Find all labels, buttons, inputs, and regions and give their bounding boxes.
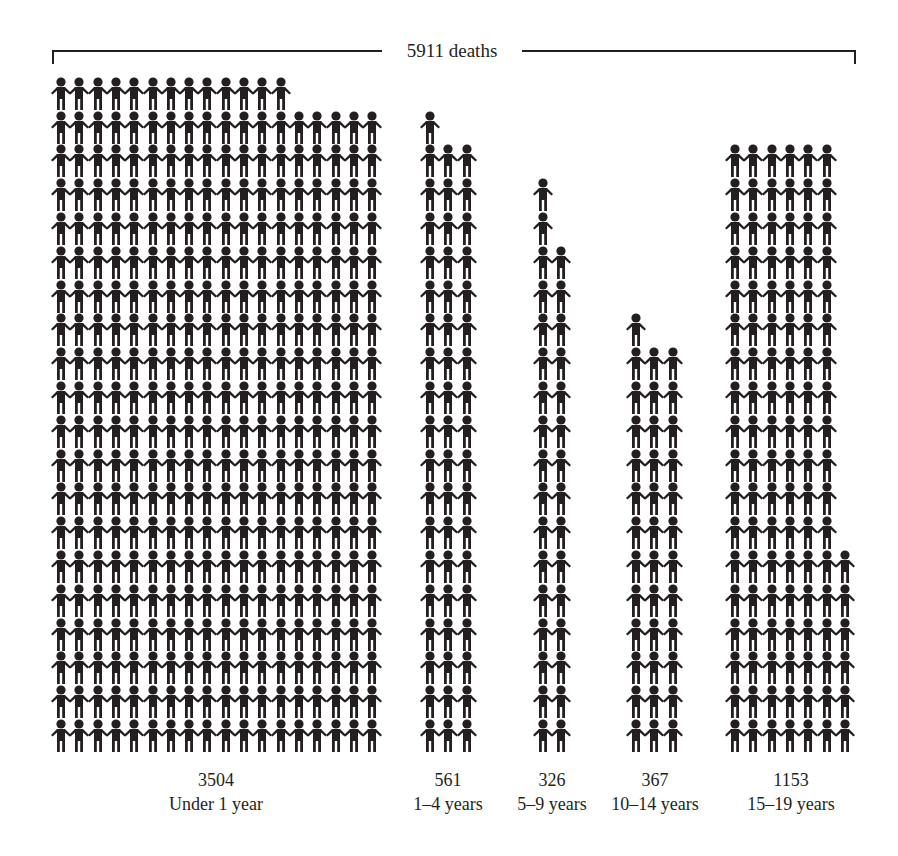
group-label-under-1: 3504 Under 1 year (136, 768, 296, 816)
person-icon (456, 144, 478, 177)
person-icon (662, 516, 684, 549)
person-icon (662, 381, 684, 414)
group-category: 1–4 years (398, 792, 498, 816)
bracket-right-tick (854, 50, 856, 64)
person-icon (550, 280, 572, 313)
person-icon (816, 516, 838, 549)
person-icon (816, 415, 838, 448)
person-icon (834, 651, 856, 684)
person-icon (532, 178, 554, 211)
person-icon (361, 347, 383, 380)
person-icon (550, 651, 572, 684)
person-icon (361, 381, 383, 414)
person-icon (456, 313, 478, 346)
person-icon (550, 685, 572, 718)
person-icon (456, 550, 478, 583)
person-icon (456, 651, 478, 684)
group-value: 561 (398, 768, 498, 792)
person-icon (361, 246, 383, 279)
person-icon (662, 651, 684, 684)
person-icon (361, 313, 383, 346)
person-icon (456, 280, 478, 313)
person-icon (456, 212, 478, 245)
person-icon (550, 415, 572, 448)
group-label-15-19: 1153 15–19 years (731, 768, 851, 816)
person-icon (662, 618, 684, 651)
person-icon (550, 482, 572, 515)
person-icon (361, 449, 383, 482)
person-icon (550, 313, 572, 346)
person-icon (532, 212, 554, 245)
person-icon (834, 584, 856, 617)
person-icon (456, 516, 478, 549)
person-icon (361, 651, 383, 684)
group-label-10-14: 367 10–14 years (600, 768, 710, 816)
person-icon (456, 618, 478, 651)
group-value: 326 (502, 768, 602, 792)
person-icon (456, 584, 478, 617)
group-category: 15–19 years (731, 792, 851, 816)
person-icon (361, 685, 383, 718)
person-icon (625, 313, 647, 346)
person-icon (361, 212, 383, 245)
person-icon (550, 584, 572, 617)
person-icon (816, 449, 838, 482)
person-icon (361, 178, 383, 211)
person-icon (816, 313, 838, 346)
group-value: 3504 (136, 768, 296, 792)
person-icon (662, 347, 684, 380)
person-icon (834, 719, 856, 752)
person-icon (550, 550, 572, 583)
person-icon (456, 415, 478, 448)
person-icon (419, 111, 441, 144)
person-icon (550, 381, 572, 414)
person-icon (662, 584, 684, 617)
person-icon (816, 212, 838, 245)
person-icon (550, 246, 572, 279)
pictogram-chart: 5911 deaths 3504 Under 1 year 561 1–4 ye… (0, 0, 898, 856)
person-icon (361, 482, 383, 515)
person-icon (456, 685, 478, 718)
person-icon (550, 618, 572, 651)
person-icon (550, 449, 572, 482)
person-icon (361, 584, 383, 617)
group-category: 10–14 years (600, 792, 710, 816)
person-icon (456, 482, 478, 515)
total-deaths-label: 5911 deaths (382, 40, 522, 62)
person-icon (662, 449, 684, 482)
person-icon (816, 280, 838, 313)
person-icon (361, 144, 383, 177)
person-icon (816, 381, 838, 414)
bracket-left-tick (52, 50, 54, 64)
person-icon (456, 719, 478, 752)
person-icon (456, 381, 478, 414)
person-icon (456, 347, 478, 380)
person-icon (361, 719, 383, 752)
group-label-1-4: 561 1–4 years (398, 768, 498, 816)
person-icon (361, 516, 383, 549)
person-icon (361, 618, 383, 651)
person-icon (834, 685, 856, 718)
person-icon (662, 482, 684, 515)
person-icon (662, 719, 684, 752)
person-icon (816, 144, 838, 177)
person-icon (361, 280, 383, 313)
person-icon (550, 347, 572, 380)
person-icon (662, 415, 684, 448)
group-category: Under 1 year (136, 792, 296, 816)
person-icon (456, 178, 478, 211)
person-icon (456, 449, 478, 482)
person-icon (662, 550, 684, 583)
person-icon (816, 482, 838, 515)
person-icon (662, 685, 684, 718)
group-label-5-9: 326 5–9 years (502, 768, 602, 816)
person-icon (361, 415, 383, 448)
person-icon (816, 347, 838, 380)
bracket-top-line-right (520, 50, 856, 52)
bracket-top-line-left (52, 50, 384, 52)
person-icon (361, 550, 383, 583)
group-category: 5–9 years (502, 792, 602, 816)
person-icon (270, 77, 292, 110)
person-icon (361, 111, 383, 144)
person-icon (834, 550, 856, 583)
